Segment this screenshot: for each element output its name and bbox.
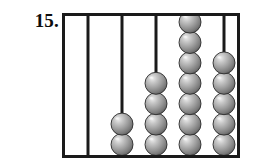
bead-highlight (182, 56, 191, 63)
bead-highlight (182, 137, 191, 144)
bead (179, 134, 201, 156)
bead (179, 32, 201, 54)
bead (179, 113, 201, 135)
figure-root: 15. Abacus with (0, 0, 257, 168)
bead-highlight (148, 76, 157, 83)
bead (111, 134, 133, 156)
bead-highlight (182, 35, 191, 42)
bead (179, 52, 201, 74)
rod-5-beads (213, 52, 235, 156)
bead (179, 93, 201, 115)
bead (179, 72, 201, 94)
bead-highlight (216, 117, 225, 124)
bead-highlight (216, 56, 225, 63)
bead-highlight (182, 96, 191, 103)
bead (213, 93, 235, 115)
rod-4-beads (179, 13, 201, 155)
bead-highlight (182, 76, 191, 83)
bead-highlight (148, 137, 157, 144)
bead-highlight (148, 96, 157, 103)
rod-2-beads (111, 113, 133, 155)
bead-highlight (216, 137, 225, 144)
bead-highlight (216, 76, 225, 83)
bead-highlight (182, 117, 191, 124)
bead-highlight (114, 137, 123, 144)
bead-highlight (114, 117, 123, 124)
bead (145, 113, 167, 135)
bead (145, 134, 167, 156)
abacus-diagram (62, 13, 241, 160)
bead (213, 134, 235, 156)
figure-alt-text: Abacus with five vertical rods holding g… (0, 0, 1, 1)
bead (111, 113, 133, 135)
bead (145, 93, 167, 115)
bead-highlight (148, 117, 157, 124)
bead-highlight (216, 96, 225, 103)
bead (145, 72, 167, 94)
beads-layer (111, 13, 235, 155)
abacus-figure (62, 13, 241, 160)
rod-3-beads (145, 72, 167, 155)
bead (213, 72, 235, 94)
bead (213, 52, 235, 74)
bead (213, 113, 235, 135)
problem-number: 15. (17, 10, 59, 32)
